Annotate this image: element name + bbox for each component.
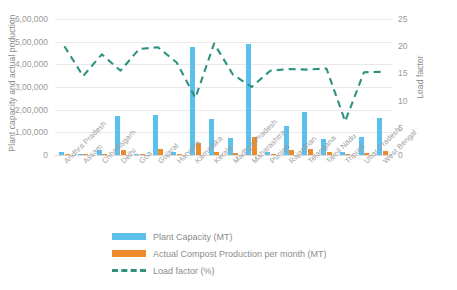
y-axis-tick-label: 6,00,000 (4, 14, 48, 24)
load-factor-line (55, 19, 392, 155)
chart-container: Plant capacity and actual poduction Load… (0, 0, 457, 290)
legend-dashed-line-icon (112, 269, 146, 272)
y-axis-tick-label: 1,00,000 (4, 127, 48, 137)
y-axis-tick-label: 3,00,000 (4, 82, 48, 92)
y-axis-tick-label: 2,00,000 (4, 105, 48, 115)
chart-legend: Plant Capacity (MT) Actual Compost Produ… (112, 228, 327, 279)
legend-label: Load factor (%) (153, 266, 215, 276)
legend-swatch-icon (112, 233, 146, 240)
legend-swatch-icon (112, 250, 146, 257)
legend-label: Plant Capacity (MT) (153, 232, 233, 242)
x-axis-labels: Andhra PradeshAssamChhattisgarhDelhiGoaG… (0, 155, 457, 215)
y-axis-tick-label: 5,00,000 (4, 37, 48, 47)
y-axis-right-tick-label: 10 (398, 96, 428, 106)
legend-label: Actual Compost Production per month (MT) (153, 249, 327, 259)
legend-item-plant-capacity: Plant Capacity (MT) (112, 228, 327, 245)
y-axis-right-tick-label: 20 (398, 41, 428, 51)
y-axis-right-tick-label: 15 (398, 68, 428, 78)
y-axis-right-tick-label: 25 (398, 14, 428, 24)
legend-item-load-factor: Load factor (%) (112, 262, 327, 279)
legend-item-actual-production: Actual Compost Production per month (MT) (112, 245, 327, 262)
plot-area (55, 19, 392, 155)
y-axis-tick-label: 4,00,000 (4, 59, 48, 69)
